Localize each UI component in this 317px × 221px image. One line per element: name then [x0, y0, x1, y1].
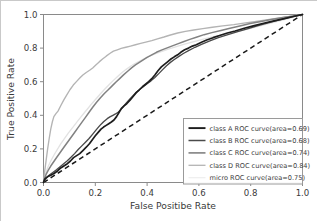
- roc-plot-canvas: 0.00.20.40.60.81.0 0.00.20.40.60.81.0 Fa…: [1, 1, 317, 221]
- y-tick-label: 0.8: [24, 43, 38, 53]
- legend-label-1: class B ROC curve(area=0.68): [210, 137, 310, 145]
- x-axis-title: False Positibe Rate: [130, 200, 216, 211]
- x-tick-label: 0.0: [37, 188, 51, 198]
- x-tick-label: 0.8: [244, 188, 258, 198]
- x-tick-label: 0.6: [192, 188, 206, 198]
- y-tick-label: 0.6: [24, 77, 38, 87]
- y-axis-title: True Positive Rate: [5, 58, 16, 141]
- y-tick-label: 1.0: [24, 10, 38, 20]
- y-tick-label: 0.0: [24, 178, 38, 188]
- x-tick-label: 0.4: [140, 188, 154, 198]
- y-tick-label: 0.2: [24, 144, 38, 154]
- chart-legend[interactable]: class A ROC curve(area=0.69)class B ROC …: [184, 119, 311, 185]
- legend-label-4: micro ROC curve(area=0.75): [210, 174, 306, 182]
- y-tick-label: 0.4: [24, 110, 38, 120]
- legend-label-3: class D ROC curve(area=0.84): [210, 162, 311, 170]
- x-tick-label: 1.0: [296, 188, 310, 198]
- legend-label-0: class A ROC curve(area=0.69): [210, 125, 310, 133]
- x-tick-label: 0.2: [88, 188, 102, 198]
- legend-label-2: class C ROC curve(area=0.74): [210, 149, 310, 157]
- roc-curve-figure: 0.00.20.40.60.81.0 0.00.20.40.60.81.0 Fa…: [0, 0, 317, 221]
